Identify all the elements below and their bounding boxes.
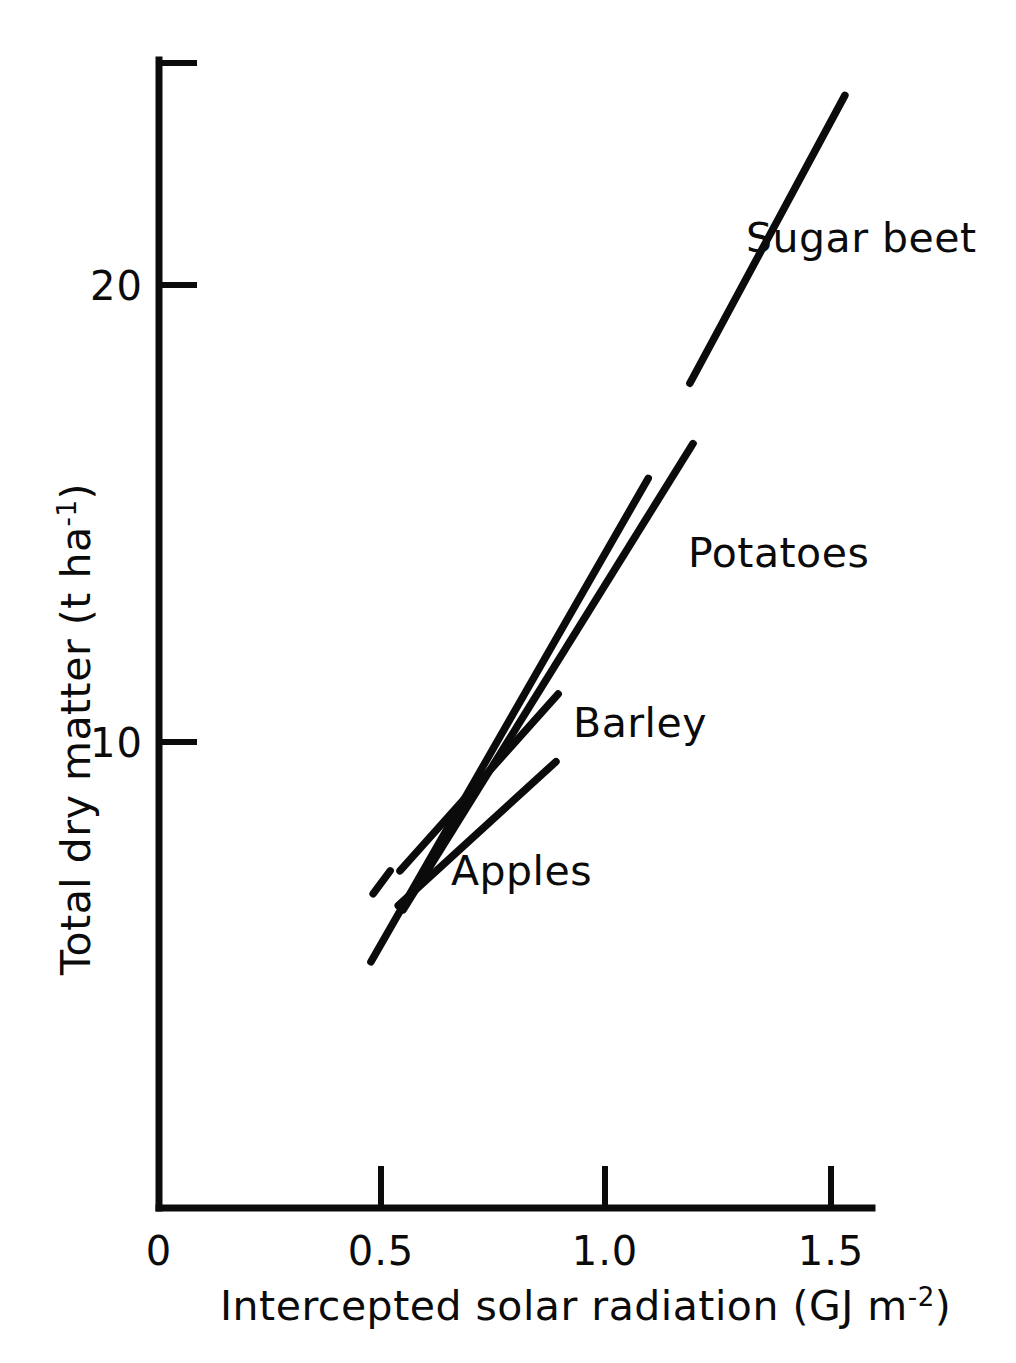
- y-axis-title-group: Total dry matter (t ha-1): [52, 483, 100, 976]
- series-label-apples: Apples: [451, 847, 592, 895]
- y-axis-title-exponent: -1: [52, 500, 82, 527]
- series-label-sugar-beet: Sugar beet: [746, 214, 977, 262]
- x-tick-label-0.5: 0.5: [348, 1228, 415, 1274]
- x-axis-title-main: Intercepted solar radiation (GJ m: [220, 1282, 908, 1330]
- x-tick-label-1.0: 1.0: [572, 1228, 639, 1274]
- series-potatoes-seg-0: [403, 444, 693, 910]
- x-axis-title-group: Intercepted solar radiation (GJ m-2): [220, 1282, 951, 1330]
- series-annotations-group: Sugar beet Potatoes Barley Apples: [451, 214, 977, 895]
- y-tick-marks-group: [159, 63, 197, 742]
- x-tick-label-0: 0: [146, 1228, 172, 1274]
- series-sugar-beet-seg-0: [373, 871, 390, 894]
- series-label-barley: Barley: [573, 699, 707, 747]
- x-axis-title-tail: ): [935, 1282, 952, 1330]
- series-potatoes: [403, 444, 693, 910]
- y-tick-label-20: 20: [90, 263, 143, 309]
- series-label-potatoes: Potatoes: [688, 529, 869, 577]
- chart-canvas: 20 10 0 0.5 1.0 1.5: [0, 0, 1016, 1363]
- y-axis-title: Total dry matter (t ha-1): [52, 483, 100, 976]
- x-axis-title-exponent: -2: [908, 1282, 935, 1312]
- y-axis-title-tail: ): [52, 483, 100, 500]
- x-tick-labels-group: 0 0.5 1.0 1.5: [146, 1228, 865, 1274]
- y-axis-title-main: Total dry matter (t ha: [52, 526, 100, 976]
- x-tick-marks-group: [381, 1166, 831, 1208]
- figure-container: 20 10 0 0.5 1.0 1.5: [0, 0, 1016, 1363]
- x-tick-label-1.5: 1.5: [798, 1228, 865, 1274]
- x-axis-title: Intercepted solar radiation (GJ m-2): [220, 1282, 951, 1330]
